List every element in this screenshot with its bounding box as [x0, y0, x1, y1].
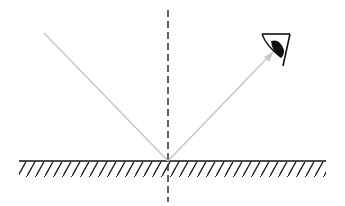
incident-ray [44, 33, 168, 161]
surface-hatching [19, 162, 326, 177]
reflected-ray [168, 51, 274, 161]
reflection-diagram [0, 0, 345, 206]
eye-icon [262, 34, 290, 66]
mirror-surface [19, 161, 326, 177]
